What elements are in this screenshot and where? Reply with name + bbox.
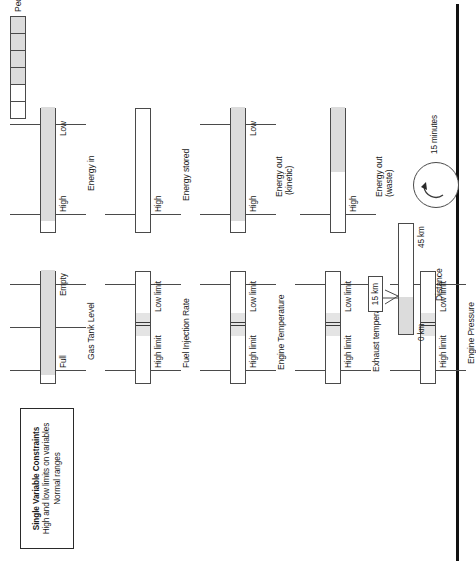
gauge-track [40,108,56,233]
gauge-track [330,108,346,233]
axis-title: People [13,0,23,12]
gauge-energy-in[interactable]: High Low Energy in [10,108,86,233]
gauge-exhaust-temperature[interactable]: High limit Low limit Exhaust temperature [295,271,371,384]
axis-title: Distance [434,268,444,301]
gauge-gas-tank-level[interactable]: Full Empty Gas Tank Level [10,271,86,384]
distance-callout: 15 km [368,276,383,312]
callout-leader-line [390,203,460,353]
people-segment [10,33,26,51]
people-indicator[interactable]: People [10,0,40,119]
axis-title: Fuel Injection Rate [181,298,191,368]
axis-title-line2: (waste) [384,170,394,197]
clock-indicator[interactable]: 15 minutes [413,108,459,208]
people-segment [10,16,26,34]
low-limit-label: Low limit [344,281,353,312]
high-limit-label: High [249,196,258,212]
low-limit-label: Low [249,121,258,136]
people-segment [10,84,26,102]
high-limit-label: Full [59,355,68,368]
gauge-track [135,271,151,384]
clock-label: 15 minutes [430,115,439,154]
low-limit-label: Empty [59,273,68,296]
low-limit-label: Low [59,121,68,136]
people-segment [10,67,26,85]
gauge-energy-out-waste[interactable]: High Energy out (waste) [300,108,386,233]
gauge-fuel-injection-rate[interactable]: High limit Low limit Fuel Injection Rate [105,271,181,384]
axis-title: Engine Pressure [466,302,476,364]
value-needle-2 [136,322,150,323]
value-needle [231,325,245,326]
gauge-track [230,108,246,233]
gauge-fill [41,270,55,375]
gauge-energy-stored[interactable]: High Energy stored [105,108,181,233]
high-limit-label: High limit [344,335,353,368]
axis-title: Engine Temperature [276,295,286,370]
legend-line-1: High and low limits on variables [42,423,53,534]
low-limit-label: Low limit [249,281,258,312]
high-limit-label: High limit [154,335,163,368]
axis-title: Energy out [274,156,284,197]
gauge-engine-temperature[interactable]: High limit Low limit Engine Temperature [200,271,276,384]
value-needle [326,325,340,326]
gauge-track [135,108,151,233]
axis-title-line2: (kinetic) [284,166,294,195]
axis-title: Energy out [374,156,384,197]
gauge-track [40,271,56,384]
gauge-track [230,271,246,384]
gauge-fill [231,107,245,221]
legend-title: Single Variable Constraints [31,427,42,530]
value-needle [136,325,150,326]
gauge-track [325,271,341,384]
low-limit-label: Low limit [154,281,163,312]
value-needle-2 [326,322,340,323]
high-limit-label: High [154,196,163,212]
distance-chart[interactable]: 0 km 45 km 15 km Distance [390,203,460,353]
people-segment [10,101,26,119]
axis-title: Energy in [86,156,96,191]
gauge-fill [331,107,345,172]
gauge-energy-out-kinetic[interactable]: High Low Energy out (kinetic) [200,108,286,233]
high-limit-label: High [349,196,358,212]
value-needle-2 [231,322,245,323]
high-limit-label: High [59,196,68,212]
people-segment [10,50,26,68]
axis-title: Energy stored [181,149,191,201]
clock-arrow-icon [413,162,459,208]
legend-box: Single Variable Constraints High and low… [20,408,74,549]
high-limit-label: High limit [249,335,258,368]
axis-title: Gas Tank Level [86,302,96,360]
gauge-fill [41,107,55,221]
legend-line-2: Normal ranges [52,452,63,504]
